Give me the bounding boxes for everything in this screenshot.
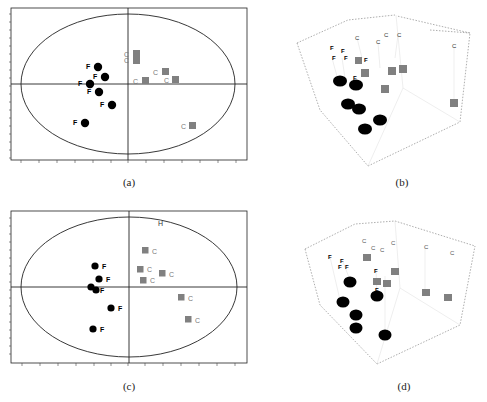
svg-text:F: F (374, 268, 378, 274)
svg-text:C: C (355, 35, 360, 41)
svg-text:C: C (164, 77, 169, 84)
3d-frame (305, 221, 475, 364)
svg-text:F: F (102, 263, 107, 270)
svg-text:C: C (371, 245, 376, 251)
svg-text:C: C (380, 247, 385, 253)
svg-text:C: C (133, 78, 138, 85)
svg-text:C: C (450, 250, 455, 256)
svg-text:C: C (169, 271, 174, 278)
svg-text:C: C (452, 43, 457, 49)
svg-text:F: F (118, 305, 123, 312)
svg-text:C: C (124, 57, 129, 64)
svg-text:F: F (73, 119, 78, 126)
svg-text:F: F (330, 45, 334, 51)
svg-text:F: F (106, 276, 111, 283)
svg-text:C: C (188, 295, 193, 302)
svg-text:F: F (344, 55, 348, 61)
svg-text:C: C (397, 32, 402, 38)
x-ticks (22, 363, 235, 366)
svg-text:F: F (341, 48, 345, 54)
svg-text:F: F (100, 287, 105, 294)
svg-text:F: F (353, 75, 357, 81)
svg-text:F: F (338, 264, 342, 270)
group-F-labels: FFFFFF (328, 254, 379, 293)
group-F-labels: FFFFF (100, 263, 123, 333)
group-C-labels: CCCCC (355, 32, 457, 49)
svg-text:C: C (147, 266, 152, 273)
3d-guides (332, 15, 460, 166)
svg-text:F: F (328, 254, 332, 260)
caption-c: (c) (109, 380, 149, 392)
x-ticks (21, 160, 236, 163)
svg-text:C: C (384, 32, 389, 38)
group-C-markers (137, 247, 192, 323)
group-C-labels: CCCCCC (147, 248, 200, 324)
svg-text:C: C (376, 39, 381, 45)
group-C-markers (355, 57, 458, 107)
caption-b: (b) (382, 176, 422, 188)
svg-text:F: F (332, 55, 336, 61)
svg-text:F: F (87, 88, 92, 95)
score-plot-c: H FFFFF CCCCCC (0, 200, 250, 370)
group-F-markers (333, 76, 387, 135)
svg-text:F: F (345, 264, 349, 270)
caption-a: (a) (109, 176, 149, 188)
svg-text:F: F (100, 101, 105, 108)
svg-text:F: F (375, 287, 379, 293)
svg-text:F: F (78, 80, 83, 87)
svg-text:F: F (100, 326, 105, 333)
group-F-markers (87, 262, 114, 332)
svg-text:C: C (362, 238, 367, 244)
score-plot-a: FFFFFF CCCCCC (0, 0, 250, 170)
svg-text:C: C (195, 317, 200, 324)
svg-text:C: C (150, 277, 155, 284)
score-plot-3d-d: FFFFFF CCCCCC (280, 200, 487, 375)
score-plot-3d-b: FFFFFF CCCCC (280, 0, 487, 175)
svg-text:F: F (86, 63, 91, 70)
svg-text:C: C (391, 240, 396, 246)
svg-text:F: F (364, 57, 368, 63)
svg-text:C: C (152, 248, 157, 255)
svg-text:C: C (181, 123, 186, 130)
group-C-markers (133, 50, 196, 129)
caption-d: (d) (384, 380, 424, 392)
group-C-labels: CCCCCC (362, 238, 455, 256)
hotelling-annotation: H (158, 220, 163, 227)
group-F-markers (81, 63, 116, 127)
svg-text:C: C (424, 244, 429, 250)
svg-text:F: F (93, 73, 98, 80)
svg-text:C: C (153, 69, 158, 76)
